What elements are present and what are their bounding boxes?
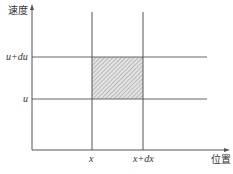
x-axis-arrow-icon	[224, 148, 230, 152]
y-axis-label: 速度	[8, 4, 28, 16]
tick-label-u-plus-du: u+du	[6, 51, 28, 62]
phase-diagram: 速度 u+du u x x+dx 位置	[0, 0, 233, 174]
x-axis-label: 位置	[211, 153, 231, 165]
tick-label-x-plus-dx: x+dx	[132, 153, 154, 164]
tick-label-x: x	[88, 153, 94, 164]
y-axis-arrow-icon	[30, 4, 34, 10]
tick-label-u: u	[23, 93, 28, 104]
shaded-region	[92, 57, 143, 99]
